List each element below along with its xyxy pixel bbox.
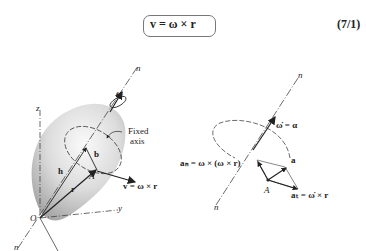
label-O: O xyxy=(30,213,37,223)
a-vector xyxy=(268,168,286,180)
label-fixed-axis-2: axis xyxy=(130,136,145,146)
alpha-vector xyxy=(253,117,275,150)
label-fixed-axis-1: Fixed xyxy=(128,126,149,136)
x-axis xyxy=(40,218,58,251)
label-n-bottom-left: n xyxy=(14,242,19,251)
point-a-right xyxy=(266,178,269,181)
label-n-top-right: n xyxy=(298,70,303,80)
diagram-canvas xyxy=(0,0,366,251)
label-b: b xyxy=(94,149,99,159)
label-A-left: A xyxy=(89,171,95,181)
label-n-bottom-right: n xyxy=(214,202,219,212)
at-vector xyxy=(268,180,297,189)
label-omega: ω xyxy=(116,88,123,98)
label-a: a xyxy=(291,155,296,165)
label-h: h xyxy=(58,166,63,176)
right-figure xyxy=(213,78,298,205)
label-alpha: ω̇ = α xyxy=(276,120,297,130)
label-n-top-left: n xyxy=(136,63,141,73)
label-r: r xyxy=(71,184,75,194)
an-vector xyxy=(258,162,268,180)
label-z: z xyxy=(36,103,40,113)
label-an: aₙ = ω × (ω × r) xyxy=(180,158,241,168)
label-y: y xyxy=(118,203,122,213)
rigid-body xyxy=(32,104,126,221)
label-A-right: A xyxy=(264,185,270,195)
label-v: v = ω × r xyxy=(123,181,157,191)
label-at: aₜ = ω̇ × r xyxy=(291,190,328,200)
